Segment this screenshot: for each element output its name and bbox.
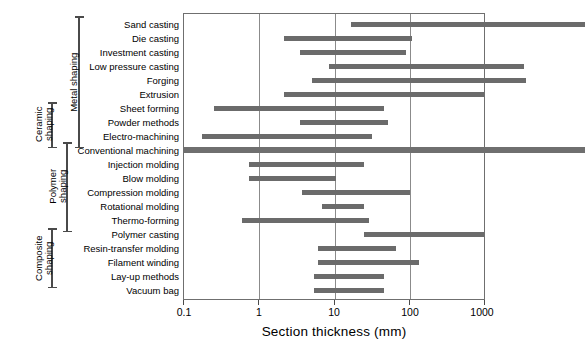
gridline-1: [259, 14, 260, 299]
bar-polymer-casting: [364, 232, 484, 237]
bar-low-pressure-casting: [329, 64, 524, 69]
process-label-low-pressure-casting: Low pressure casting: [9, 62, 179, 72]
bar-filament-winding: [318, 260, 418, 265]
bar-sheet-forming: [214, 106, 384, 111]
tick-10: [334, 300, 335, 305]
bar-investment-casting: [300, 50, 406, 55]
process-label-compression-molding: Compression molding: [9, 188, 179, 198]
bar-vacuum-bag: [314, 288, 384, 293]
tick-1000: [484, 300, 485, 305]
bar-powder-methods: [300, 120, 388, 125]
bar-thermo-forming: [242, 218, 369, 223]
plot-area: [183, 13, 485, 300]
bracket-cap-top: [75, 16, 84, 18]
bar-conventional-machining: [184, 147, 585, 153]
bracket-cap-bottom: [75, 147, 84, 149]
x-axis-tick-labels: 0.1 1 10 100 1000: [0, 306, 501, 320]
bar-extrusion: [284, 92, 484, 97]
tick-0.1: [183, 300, 184, 305]
ticklabel-1: 1: [234, 306, 284, 318]
process-label-die-casting: Die casting: [9, 34, 179, 44]
process-label-sand-casting: Sand casting: [9, 20, 179, 30]
group-label-composite-shaping-line2: shaping: [44, 208, 55, 308]
tick-100: [409, 300, 410, 305]
bar-blow-molding: [249, 176, 336, 181]
process-label-column: Sand casting Die casting Investment cast…: [84, 13, 179, 300]
ticklabel-0.1: 0.1: [159, 306, 209, 318]
process-label-investment-casting: Investment casting: [9, 48, 179, 58]
ticklabel-100: 100: [385, 306, 435, 318]
bar-injection-molding: [249, 162, 363, 167]
bar-lay-up-methods: [314, 274, 384, 279]
gridline-100: [410, 14, 411, 299]
ticklabel-1000: 1000: [457, 306, 507, 318]
gridline-10: [335, 14, 336, 299]
bar-forging: [312, 78, 526, 83]
bar-sand-casting: [351, 22, 585, 27]
group-label-metal-shaping: Metal shaping: [69, 32, 80, 132]
group-label-polymer-shaping-line2: shaping: [58, 136, 69, 236]
x-axis-title: Section thickness (mm): [183, 324, 485, 339]
bar-rotational-molding: [322, 204, 363, 209]
ticklabel-10: 10: [309, 306, 359, 318]
tick-1: [258, 300, 259, 305]
process-label-blow-molding: Blow molding: [9, 174, 179, 184]
bar-electro-machining: [202, 134, 372, 139]
bar-compression-molding: [302, 190, 410, 195]
bar-die-casting: [284, 36, 412, 41]
bar-resin-transfer-molding: [318, 246, 395, 251]
